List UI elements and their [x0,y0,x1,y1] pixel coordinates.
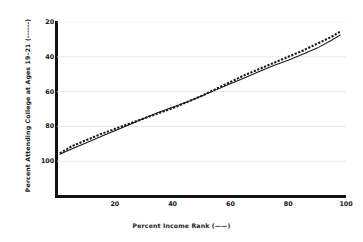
y-tick-label: 60 [36,88,54,96]
x-tick-label: 80 [275,200,301,208]
x-tick-label: 40 [160,200,186,208]
series-line-2 [60,32,340,154]
x-tick-label: 100 [333,200,359,208]
x-axis-tick-labels: 20406080100 [57,200,357,212]
y-tick-label: 40 [36,53,54,61]
series-line-1 [60,35,340,154]
x-axis-label: Percent Income Rank (——) [0,222,363,229]
plot-svg [57,22,346,196]
x-tick-label: 60 [217,200,243,208]
data-series-layer [60,32,340,155]
y-tick-label: 20 [36,18,54,26]
x-tick-label: 20 [102,200,128,208]
y-tick-label: 80 [36,122,54,130]
plot-area [57,22,346,196]
y-axis-tick-labels: 10080604020 [33,0,54,242]
y-tick-label: 100 [36,157,54,165]
gridlines [57,22,346,161]
y-axis-label: Percent Attending College at Ages 19–21 … [25,18,32,191]
chart-figure: Percent Attending College at Ages 19–21 … [0,0,363,242]
